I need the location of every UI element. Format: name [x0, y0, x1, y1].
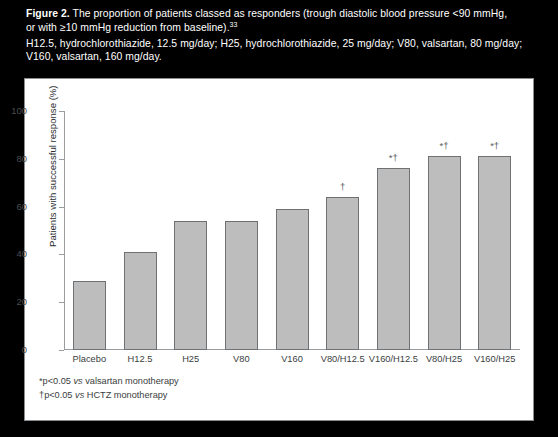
- footnote-asterisk: *p<0.05 vs valsartan monotherapy: [39, 376, 179, 386]
- figure-container: Figure 2. The proportion of patients cla…: [0, 0, 558, 437]
- caption-text-1: The proportion of patients classed as re…: [73, 8, 508, 19]
- x-label-V160/H25: V160/H25: [469, 354, 520, 364]
- y-tick-label-80: 80: [0, 153, 27, 164]
- caption-reference: 33: [230, 20, 238, 27]
- x-label-V160: V160: [267, 354, 318, 364]
- caption-line-2: or with ≥10 mmHg reduction from baseline…: [26, 21, 536, 35]
- y-tick-label-100: 100: [0, 105, 27, 116]
- bar-V80/H12.5: [326, 197, 359, 350]
- bar-H12.5: [124, 252, 157, 350]
- y-tick-0: [59, 350, 64, 351]
- abbreviation-line-2: V160, valsartan, 160 mg/day.: [26, 50, 536, 64]
- bar-H25: [174, 221, 207, 350]
- significance-marker-V80/H12.5: †: [323, 181, 363, 192]
- footnote-text-2a: p<0.05: [44, 390, 75, 400]
- bar-V160: [276, 209, 309, 350]
- y-tick-label-0: 0: [0, 344, 27, 355]
- abbreviation-line-1: H12.5, hydrochlorothiazide, 12.5 mg/day;…: [26, 37, 536, 51]
- significance-marker-V80/H25: *†: [424, 140, 464, 151]
- x-label-H25: H25: [165, 354, 216, 364]
- x-label-H12.5: H12.5: [115, 354, 166, 364]
- y-tick-label-20: 20: [0, 296, 27, 307]
- figure-label: Figure 2.: [26, 8, 70, 19]
- significance-marker-V160/H12.5: *†: [373, 152, 413, 163]
- footnote-text-1a: p<0.05: [43, 376, 74, 386]
- bar-V80: [225, 221, 258, 350]
- figure-caption-band: Figure 2. The proportion of patients cla…: [0, 0, 558, 72]
- footnote-text-2c: HCTZ monotherapy: [84, 390, 167, 400]
- y-tick-label-60: 60: [0, 201, 27, 212]
- x-label-Placebo: Placebo: [64, 354, 115, 364]
- y-axis-title: Patients with successful response (%): [47, 85, 58, 247]
- chart-panel: Patients with successful response (%) 02…: [24, 78, 534, 421]
- caption-line-1: Figure 2. The proportion of patients cla…: [26, 7, 536, 21]
- x-label-V80: V80: [216, 354, 267, 364]
- footnote-dagger: †p<0.05 vs HCTZ monotherapy: [39, 390, 167, 400]
- significance-marker-V160/H25: *†: [475, 140, 515, 151]
- bar-V160/H25: [478, 156, 511, 350]
- caption-text-2: or with ≥10 mmHg reduction from baseline…: [26, 22, 230, 33]
- bar-V160/H12.5: [377, 168, 410, 350]
- footnote-text-1b: vs: [74, 376, 83, 386]
- x-label-V160/H12.5: V160/H12.5: [368, 354, 419, 364]
- x-label-V80/H12.5: V80/H12.5: [317, 354, 368, 364]
- footnote-text-2b: vs: [75, 390, 84, 400]
- plot-area: Patients with successful response (%) 02…: [25, 79, 535, 422]
- footnote-text-1c: valsartan monotherapy: [83, 376, 179, 386]
- x-label-V80/H25: V80/H25: [419, 354, 470, 364]
- bar-V80/H25: [428, 156, 461, 350]
- y-tick-label-40: 40: [0, 248, 27, 259]
- bar-Placebo: [73, 281, 106, 350]
- bar-series: †*†*†*†: [64, 111, 520, 350]
